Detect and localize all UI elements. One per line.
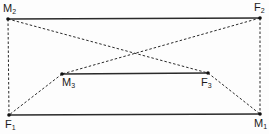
label-m1: M1: [254, 118, 267, 130]
point-m1: [258, 112, 262, 116]
label-m3: M3: [62, 77, 75, 89]
edge-m2-f1: [8, 19, 9, 115]
edge-m3-f1: [9, 74, 62, 115]
edge-f1-m1: [9, 114, 260, 115]
edge-f2-m3: [62, 18, 260, 74]
diagram-lines: [0, 0, 269, 134]
point-f2: [258, 16, 262, 20]
label-f3: F3: [201, 77, 212, 89]
point-f3: [206, 71, 210, 75]
edge-f3-m1: [208, 73, 260, 114]
edge-m2-f3: [8, 19, 208, 73]
label-f2: F2: [254, 2, 265, 14]
edge-m3-f3: [62, 73, 208, 74]
label-f1: F1: [5, 119, 16, 131]
point-m2: [6, 17, 10, 21]
edge-m2-f2: [8, 18, 260, 19]
point-f1: [7, 113, 11, 117]
label-m2: M2: [3, 3, 16, 15]
diagram-canvas: M2 F2 M3 F3 F1 M1: [0, 0, 269, 134]
